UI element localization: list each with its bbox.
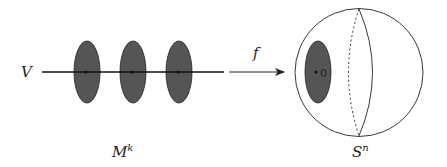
sphere-disk-center-dot xyxy=(315,71,318,74)
sphere-label-base: S xyxy=(352,143,362,161)
sphere-label: Sn xyxy=(352,142,369,161)
manifold-label-superscript: k xyxy=(127,142,133,153)
sphere-back-meridian-dashed xyxy=(349,9,360,136)
sphere-disk xyxy=(305,41,331,103)
sphere-front-meridian xyxy=(359,9,373,136)
sphere-disk-point-label: 0 xyxy=(320,67,327,80)
disk-3-center-dot xyxy=(176,70,179,73)
manifold-label-base: M xyxy=(111,143,128,161)
diagram-canvas: V Mk f 0 Sn xyxy=(0,0,447,167)
map-label-f: f xyxy=(252,44,261,62)
disk-2-center-dot xyxy=(130,70,133,73)
line-label-v: V xyxy=(21,63,34,81)
sphere-label-superscript: n xyxy=(362,142,368,153)
sphere-group: 0 Sn xyxy=(295,9,423,162)
manifold-group: V Mk xyxy=(21,41,224,161)
disk-1-center-dot xyxy=(84,70,87,73)
manifold-label: Mk xyxy=(111,142,133,161)
map-arrow-group: f xyxy=(229,44,284,72)
